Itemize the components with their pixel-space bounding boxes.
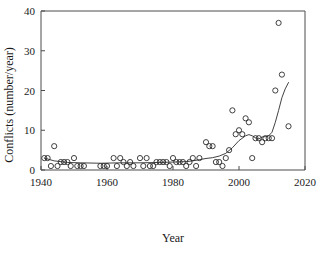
y-tick-label-0: 0: [30, 164, 36, 176]
data-point: [144, 155, 149, 160]
data-point: [269, 136, 274, 141]
x-tick-label-1980: 1980: [162, 176, 185, 188]
data-point: [48, 163, 53, 168]
data-point: [111, 155, 116, 160]
data-point: [190, 155, 195, 160]
data-point: [68, 163, 73, 168]
y-tick-label-30: 30: [24, 45, 36, 57]
x-tick-label-1960: 1960: [96, 176, 119, 188]
x-tick-label-2000: 2000: [228, 176, 251, 188]
y-axis-title: Conflicts (number/year): [2, 47, 16, 163]
data-point: [273, 88, 278, 93]
y-tick-label-10: 10: [24, 124, 36, 136]
data-point: [210, 144, 215, 149]
chart-canvas: 19401960198020002020 010203040 Year Conf…: [0, 0, 325, 254]
x-axis-tick-marks: [41, 166, 305, 170]
data-point: [230, 108, 235, 113]
conflicts-per-year-scatter-chart: 19401960198020002020 010203040 Year Conf…: [0, 0, 325, 254]
x-axis-title: Year: [162, 231, 184, 245]
data-point: [71, 155, 76, 160]
y-axis-tick-marks: [41, 11, 45, 170]
y-axis-tick-labels: 010203040: [24, 5, 36, 176]
data-point: [167, 163, 172, 168]
data-point: [276, 20, 281, 25]
data-point: [286, 124, 291, 129]
data-point: [240, 132, 245, 137]
y-tick-label-40: 40: [24, 5, 36, 17]
x-axis-tick-labels: 19401960198020002020: [30, 176, 317, 188]
scatter-points-layer: [42, 20, 291, 168]
data-point: [194, 163, 199, 168]
data-point: [220, 163, 225, 168]
y-tick-label-20: 20: [24, 85, 36, 97]
data-point: [81, 163, 86, 168]
data-point: [52, 144, 57, 149]
x-tick-label-2020: 2020: [294, 176, 317, 188]
data-point: [223, 155, 228, 160]
data-point: [250, 155, 255, 160]
plot-frame: [41, 11, 305, 170]
data-point: [114, 163, 119, 168]
data-point: [246, 120, 251, 125]
data-point: [137, 155, 142, 160]
data-point: [279, 72, 284, 77]
x-tick-label-1940: 1940: [30, 176, 53, 188]
data-point: [141, 163, 146, 168]
data-point: [131, 163, 136, 168]
